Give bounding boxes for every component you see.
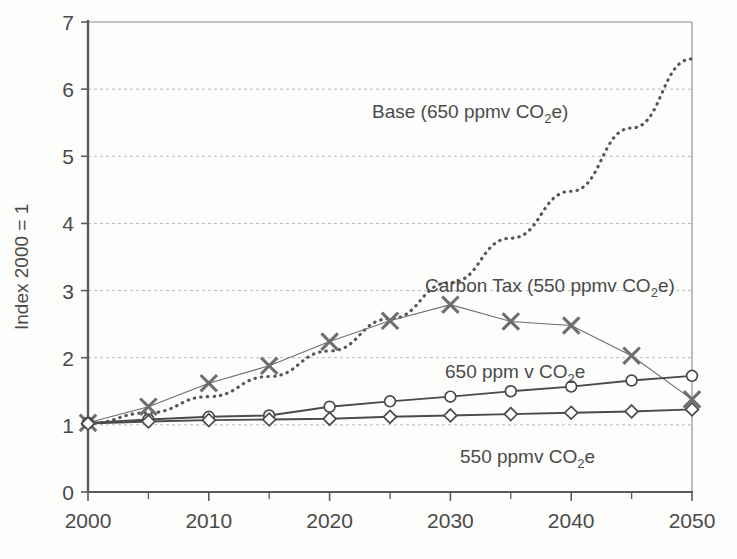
low-550-label: 550 ppmv CO2e [460,446,595,471]
data-marker-diamond [384,410,397,423]
data-marker-cross [201,375,217,391]
x-axis: 200020102020203020402050 [65,492,716,532]
x-tick-label: 2020 [306,509,353,532]
data-marker-circle [505,386,516,397]
data-marker-cross [321,333,337,349]
data-marker-circle [626,375,637,386]
x-tick-label: 2000 [65,509,112,532]
y-tick-label: 4 [62,212,74,235]
x-tick-label: 2050 [669,509,716,532]
data-marker-diamond [323,412,336,425]
data-marker-circle [445,391,456,402]
y-axis-title: Index 2000 = 1 [11,204,32,330]
y-tick-label: 1 [62,414,74,437]
y-axis: 01234567 [62,11,88,504]
y-tick-label: 0 [62,481,74,504]
data-marker-circle [324,401,335,412]
data-marker-circle [385,396,396,407]
data-marker-cross [623,348,639,364]
data-marker-diamond [565,406,578,419]
base-label: Base (650 ppmv CO2e) [372,101,568,126]
x-tick-label: 2040 [548,509,595,532]
data-marker-diamond [444,409,457,422]
gridlines [88,89,692,425]
y-tick-label: 3 [62,280,74,303]
x-tick-label: 2010 [185,509,232,532]
y-tick-label: 6 [62,78,74,101]
mid-650-label: 650 ppm v CO2e [445,361,585,386]
data-marker-circle [687,370,698,381]
data-marker-cross [442,296,458,312]
y-tick-label: 7 [62,11,74,34]
data-marker-diamond [625,405,638,418]
data-marker-cross [382,313,398,329]
line-chart: 01234567 200020102020203020402050 Index … [0,0,737,559]
y-tick-label: 2 [62,347,74,370]
data-marker-cross [140,399,156,415]
data-marker-diamond [504,408,517,421]
data-marker-cross [261,358,277,374]
x-tick-label: 2030 [427,509,474,532]
carbon-tax-label: Carbon Tax (550 ppmv CO2e) [425,275,675,300]
y-tick-label: 5 [62,145,74,168]
chart-container: 01234567 200020102020203020402050 Index … [0,0,737,559]
